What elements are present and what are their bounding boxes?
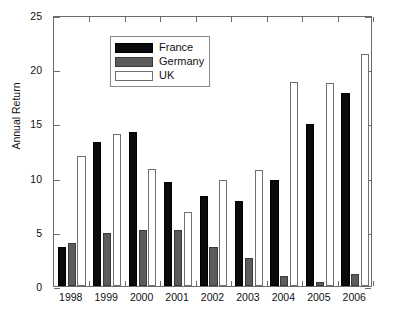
bar-france-2002 [200,196,208,286]
bar-uk-2006 [361,54,369,286]
x-tick-label: 2003 [236,291,259,303]
y-axis-tick-labels: 0510152025 [0,16,48,287]
bar-uk-2005 [326,83,334,286]
chart-legend: FranceGermanyUK [110,36,210,87]
plot-area: FranceGermanyUK [53,16,372,287]
bar-germany-1999 [103,233,111,286]
y-tick-label: 5 [36,228,42,238]
bar-germany-2003 [245,258,253,286]
x-tick-label: 2001 [165,291,188,303]
x-tick-label: 2006 [343,291,366,303]
legend-swatch-germany [115,57,153,67]
bar-germany-1998 [68,243,76,286]
legend-item-uk: UK [115,69,204,82]
x-axis-tick-labels: 199819992000200120022003200420052006 [53,289,372,311]
x-tick-label: 2000 [130,291,153,303]
bar-uk-2001 [184,212,192,286]
bar-france-2000 [129,132,137,286]
x-tick-mark [373,281,374,286]
legend-swatch-uk [115,71,153,81]
x-tick-label: 1998 [59,291,82,303]
legend-item-france: France [115,41,204,54]
bar-uk-1998 [77,156,85,286]
legend-label: Germany [159,56,204,67]
bar-france-1999 [93,142,101,286]
bar-france-2001 [164,182,172,286]
legend-label: UK [159,70,174,81]
bar-france-2004 [270,180,278,286]
bar-france-2003 [235,201,243,286]
bar-germany-2006 [351,274,359,286]
y-tick-label: 0 [36,282,42,292]
x-tick-label: 2004 [272,291,295,303]
bar-france-1998 [58,247,66,286]
x-tick-label: 2002 [201,291,224,303]
bar-france-2005 [306,124,314,286]
legend-item-germany: Germany [115,55,204,68]
y-tick-label: 15 [30,119,42,129]
legend-swatch-france [115,43,153,53]
legend-label: France [159,42,193,53]
bar-series-container [54,17,371,286]
x-tick-label: 1999 [94,291,117,303]
y-tick-label: 10 [30,174,42,184]
bar-uk-2002 [219,180,227,286]
bar-chart: Annual Return 0510152025 FranceGermanyUK… [0,0,393,322]
bar-germany-2004 [280,276,288,286]
bar-uk-2003 [255,170,263,286]
bar-germany-2005 [316,282,324,286]
bar-germany-2000 [139,230,147,286]
bar-germany-2001 [174,230,182,286]
bar-uk-2000 [148,169,156,286]
bar-uk-1999 [113,134,121,286]
x-tick-label: 2005 [307,291,330,303]
bar-france-2006 [341,93,349,286]
bar-uk-2004 [290,82,298,286]
bar-germany-2002 [209,247,217,286]
y-tick-label: 25 [30,11,42,21]
x-tick-mark-top [373,17,374,22]
y-tick-label: 20 [30,65,42,75]
